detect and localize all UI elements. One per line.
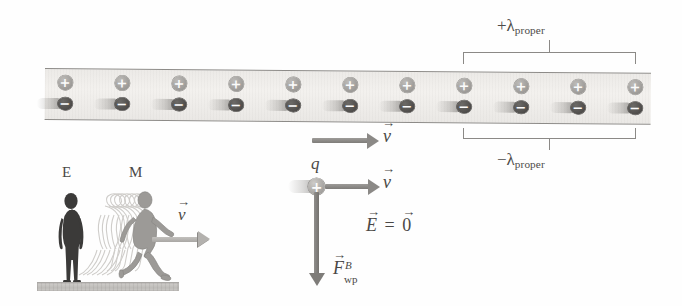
negative-charge: −: [513, 101, 528, 114]
ground-texture: [37, 283, 179, 291]
observer-velocity-label: v →: [178, 205, 186, 225]
observer-M-label: M: [129, 164, 142, 181]
lambda-sign-positive: +: [497, 16, 507, 35]
label-lambda-proper-negative: −λproper: [497, 150, 545, 170]
positive-charge: +: [171, 76, 186, 91]
lambda-glyph-negative: λ: [507, 150, 515, 169]
bracket-tick-right: [635, 128, 636, 138]
bracket-positive-charge-density: [463, 40, 636, 64]
wire-velocity-label: v →: [383, 126, 391, 147]
wire-strip: + − + − + − + − + − + − +: [45, 68, 651, 125]
bracket-tick-left: [463, 52, 464, 64]
q-glyph: q: [311, 154, 320, 173]
negative-charge: −: [57, 97, 72, 110]
lambda-subscript-positive: proper: [515, 24, 545, 36]
bracket-tick-left: [463, 128, 464, 138]
positive-charge: +: [399, 78, 414, 93]
negative-charge: −: [570, 101, 585, 114]
positive-charge: +: [285, 77, 300, 92]
equals-sign: =: [382, 215, 398, 235]
negative-charge: −: [456, 100, 471, 113]
test-charge-velocity-label: v →: [383, 172, 391, 193]
positive-charge: +: [627, 80, 642, 95]
negative-charge: −: [114, 98, 129, 111]
negative-charge: −: [171, 98, 186, 111]
positive-charge: +: [114, 76, 129, 91]
lambda-subscript-negative: proper: [515, 158, 545, 170]
lambda-sign-negative: −: [497, 150, 507, 169]
negative-charge: −: [228, 98, 243, 111]
vector-accent: →: [177, 194, 190, 210]
force-subscript: wp: [344, 273, 357, 285]
positive-charge: +: [57, 75, 72, 90]
bracket-bar: [463, 52, 636, 53]
positive-charge: +: [228, 76, 243, 91]
bracket-negative-charge-density: [463, 128, 636, 152]
ground-surface: [37, 282, 179, 291]
force-label: F → B wp: [333, 258, 361, 279]
observer-E-label: E: [62, 164, 71, 181]
wire-velocity-arrow: [312, 138, 368, 143]
observer-velocity-arrow: [152, 237, 198, 242]
figure-canvas: +λproper + − + − + − + − + −: [0, 0, 682, 306]
electric-field-statement: E → = 0 →: [366, 215, 411, 236]
test-charge-velocity-arrow: [325, 184, 369, 189]
bracket-tick-right: [635, 52, 636, 64]
positive-charge: +: [513, 79, 528, 94]
lambda-glyph-positive: λ: [507, 16, 515, 35]
negative-charge: −: [627, 102, 642, 115]
test-charge-label: q: [311, 154, 320, 174]
negative-charge: −: [399, 100, 414, 113]
bracket-stem: [549, 138, 550, 150]
observer-velocity-arrowhead: [198, 231, 210, 247]
positive-charge: +: [570, 79, 585, 94]
vector-accent: →: [402, 204, 415, 220]
positive-charge: +: [342, 77, 357, 92]
force-superscript: B: [345, 259, 352, 271]
magnetic-force-arrow: [314, 192, 319, 274]
positive-charge: +: [456, 78, 471, 93]
bracket-stem: [549, 40, 550, 52]
observer-E-figure: [55, 192, 89, 286]
label-lambda-proper-positive: +λproper: [497, 16, 545, 36]
vector-accent: →: [382, 161, 395, 177]
vector-accent: →: [382, 115, 395, 131]
negative-charge: −: [342, 99, 357, 112]
negative-charge: −: [285, 99, 300, 112]
vector-accent: →: [367, 204, 380, 220]
